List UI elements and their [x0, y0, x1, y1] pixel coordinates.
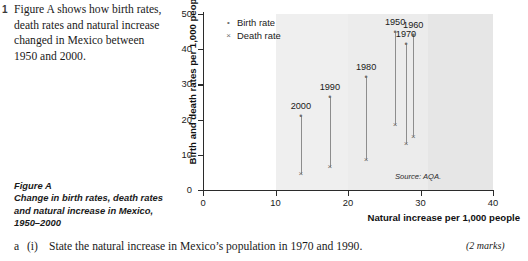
death-rate-point-2000: ×	[299, 170, 304, 178]
death-rate-point-1980: ×	[364, 156, 369, 164]
birth-rate-point-1970: •	[404, 39, 407, 48]
answer-roman-numeral: (i)	[27, 240, 38, 253]
death-rate-point-1950: ×	[393, 121, 398, 129]
chart-shaded-band-1	[348, 14, 428, 190]
y-tick	[198, 155, 203, 156]
legend-label: Birth rate	[235, 17, 275, 28]
x-tick	[203, 191, 204, 196]
figure-caption: Figure A Change in birth rates, death ra…	[14, 180, 166, 230]
y-tick	[198, 120, 203, 121]
figure-caption-title: Figure A	[14, 180, 166, 192]
range-stem-1990	[330, 97, 331, 167]
year-label-2000: 2000	[291, 101, 311, 111]
range-stem-2000	[301, 116, 302, 174]
birth-rate-point-1980: •	[365, 73, 368, 82]
y-tick	[198, 14, 203, 15]
chart-shaded-band-0	[276, 14, 349, 190]
birth-rate-point-2000: •	[299, 112, 302, 121]
legend-item: ×Death rate	[222, 29, 281, 42]
y-axis-label: Birth and death rates per 1,000 people	[187, 0, 198, 166]
x-axis-label: Natural increase per 1,000 people	[270, 212, 520, 223]
death-rate-point-1970: ×	[404, 140, 409, 148]
death-rate-marker-icon: ×	[222, 31, 235, 40]
range-stem-1950	[395, 32, 396, 125]
x-tick	[276, 191, 277, 196]
figure-caption-subtitle: Change in birth rates, death rates and n…	[14, 192, 166, 229]
x-tick-label: 10	[261, 197, 291, 208]
x-tick-label: 20	[333, 197, 363, 208]
birth-rate-point-1990: •	[328, 92, 331, 101]
x-tick	[493, 191, 494, 196]
y-tick	[198, 49, 203, 50]
figure-a-chart: •×1950•×1960•×1970•×1980•×1990•×2000 010…	[170, 0, 528, 232]
y-axis-line	[203, 12, 204, 192]
x-tick	[348, 191, 349, 196]
y-tick	[198, 84, 203, 85]
question-text: Figure A shows how birth rates, death ra…	[14, 2, 164, 64]
x-tick-label: 0	[188, 197, 218, 208]
death-rate-point-1960: ×	[411, 133, 416, 141]
answer-marks: (2 marks)	[466, 240, 505, 251]
question-number: 1	[2, 4, 8, 15]
legend-item: •Birth rate	[222, 16, 281, 29]
range-stem-1980	[366, 77, 367, 160]
range-stem-1970	[406, 44, 407, 144]
birth-rate-marker-icon: •	[222, 18, 235, 27]
answer-part-letter: a	[14, 240, 19, 253]
year-label-1980: 1980	[356, 62, 376, 72]
worksheet-page: 1 Figure A shows how birth rates, death …	[0, 0, 528, 261]
chart-source: Source: AQA.	[395, 172, 441, 181]
death-rate-point-1990: ×	[328, 163, 333, 171]
x-tick-label: 40	[478, 197, 508, 208]
chart-legend: •Birth rate×Death rate	[222, 16, 281, 42]
range-stem-1960	[413, 35, 414, 137]
legend-label: Death rate	[235, 30, 281, 41]
year-label-1970: 1970	[396, 29, 416, 39]
x-tick	[421, 191, 422, 196]
y-tick-label: 0	[172, 184, 192, 195]
answer-question-text: State the natural increase in Mexico’s p…	[49, 240, 362, 253]
chart-shaded-band-2	[428, 14, 493, 190]
year-label-1990: 1990	[320, 82, 340, 92]
x-tick-label: 30	[406, 197, 436, 208]
